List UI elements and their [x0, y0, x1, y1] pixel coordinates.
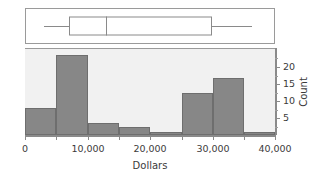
y-axis-line: [275, 48, 277, 135]
y-axis-minor-tick: [275, 110, 278, 111]
y-axis-label-10: 10: [283, 96, 295, 106]
y-axis-tick: [275, 101, 280, 102]
histogram-bar: [182, 93, 213, 135]
histogram-panel: [25, 48, 275, 135]
x-axis-tick: [150, 135, 151, 140]
y-axis-title: Count: [298, 77, 309, 107]
y-axis-minor-tick: [275, 58, 278, 59]
box-median-line: [106, 17, 107, 36]
x-axis-label-0: 0: [22, 143, 28, 154]
x-axis-tick: [213, 135, 214, 140]
x-axis-tick: [56, 135, 57, 140]
y-axis-minor-tick: [275, 127, 278, 128]
whisker-high-line: [212, 26, 252, 27]
y-axis-minor-tick: [275, 76, 278, 77]
y-axis-minor-tick: [275, 93, 278, 94]
y-axis-tick: [275, 84, 280, 85]
x-axis-tick: [119, 135, 120, 140]
x-axis-label-10000: 10,000: [71, 143, 104, 154]
y-axis-label-15: 15: [283, 79, 295, 89]
x-axis-title: Dollars: [133, 160, 168, 171]
x-axis-tick: [275, 135, 276, 140]
x-axis-label-20000: 20,000: [133, 143, 166, 154]
y-axis-tick: [275, 67, 280, 68]
boxplot-panel: [25, 8, 275, 44]
histogram-boxplot-figure: 20 15 10 5 Count 0 10,000 20,000 30,000 …: [0, 0, 326, 180]
x-axis-tick: [88, 135, 89, 140]
histogram-bar: [56, 55, 88, 135]
histogram-bar: [88, 123, 119, 135]
histogram-bar: [213, 78, 244, 135]
histogram-bar: [119, 127, 150, 135]
x-axis-tick: [25, 135, 26, 140]
x-axis-tick: [182, 135, 183, 140]
x-axis-label-40000: 40,000: [258, 143, 291, 154]
whisker-low-line: [44, 26, 69, 27]
histogram-bar: [25, 108, 56, 135]
x-axis-label-30000: 30,000: [196, 143, 229, 154]
box-iqr-rect: [69, 17, 212, 36]
y-axis-tick: [275, 118, 280, 119]
y-axis-label-5: 5: [283, 113, 289, 123]
y-axis-label-20: 20: [283, 62, 295, 72]
x-axis-tick: [244, 135, 245, 140]
